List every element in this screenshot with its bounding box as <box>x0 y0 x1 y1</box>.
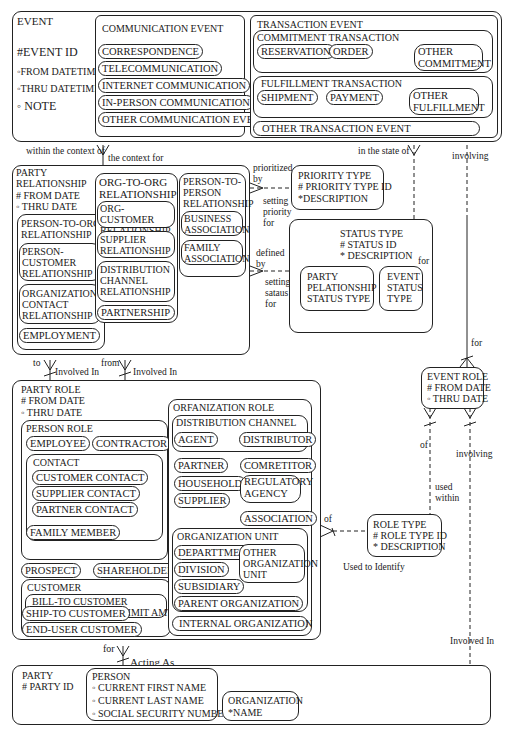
person-role-entity[interactable]: PERSON ROLE EMPLOYEE CONTRACTOR CONTACT … <box>21 420 168 560</box>
in-person-communication-subtype[interactable]: IN-PERSON COMMUNICATION <box>98 95 254 110</box>
party-relationship-entity[interactable]: PARTY RELATIONSHIP # FROM DATE ◦ THRU DA… <box>12 165 250 355</box>
other-transaction-event-subtype[interactable]: OTHER TRANSACTION EVENT <box>253 121 480 136</box>
other-commitment-subtype[interactable]: OTHER COMMITMENT <box>414 44 483 71</box>
regulatory-agency-subtype[interactable]: REGULATORY AGENCY <box>240 475 301 503</box>
label-for-status: for <box>418 256 429 267</box>
event-role-entity[interactable]: EVENT ROLE # FROM DATE ◦ THRU DATE <box>421 367 484 409</box>
party-role-title: PARTY ROLE <box>21 384 81 395</box>
reservation-subtype[interactable]: RESERVATION <box>257 44 335 59</box>
event-attr: ◦FROM DATETIME <box>17 66 101 77</box>
partnership-subtype[interactable]: PARTNERSHIP <box>97 305 175 320</box>
ship-to-customer-subtype[interactable]: SHIP-TO CUSTOMER <box>22 606 130 621</box>
party-title: PARTY <box>22 670 53 681</box>
business-association-subtype[interactable]: BUSINESS ASSOCIATION <box>181 211 243 236</box>
payment-subtype[interactable]: PAYMENT <box>326 90 383 105</box>
family-association-subtype[interactable]: FAMILY ASSOCIATION <box>181 240 243 265</box>
internet-communication-subtype[interactable]: INTERNET COMMUNICATION <box>98 78 250 93</box>
supplier-relationship-subtype[interactable]: SUPPLIER RELATIONSHIP <box>97 231 175 258</box>
shipment-subtype[interactable]: SHIPMENT <box>257 90 318 105</box>
role-type-attr: * DESCRIPTION <box>373 541 446 552</box>
person-title: PERSON <box>92 671 130 682</box>
supplier-relationship-label: SUPPLIER RELATIONSHIP <box>100 234 176 256</box>
other-fulfillment-subtype[interactable]: OTHER FULFILLMENT <box>409 88 479 115</box>
supplier-subtype[interactable]: SUPPLIER <box>174 493 230 508</box>
party-relationship-status-type-subtype[interactable]: PARTY PELATIONSHIP STATUS TYPE <box>300 266 374 311</box>
partner-contact-subtype[interactable]: PARTNER CONTACT <box>32 502 138 517</box>
organization-role-title: ORFANIZATION ROLE <box>173 402 274 413</box>
event-role-attr: ◦ THRU DATE <box>427 393 488 404</box>
label-involving-event-role: involving <box>456 449 492 460</box>
priority-type-attr: *DESCRIPTION <box>298 193 368 204</box>
competitor-subtype[interactable]: COMRETITOR <box>240 458 316 473</box>
distribution-channel-entity[interactable]: DISTRIBUTION CHANNEL AGENT DISTRIBUTOR <box>172 415 308 452</box>
event-attr: #EVENT ID <box>17 46 78 59</box>
role-type-title: ROLE TYPE <box>373 519 426 530</box>
person-to-org-relationship-entity[interactable]: PERSON-TO-ORG RELATIONSHIP PERSON-CUSTOM… <box>17 214 105 350</box>
event-role-title: EVENT ROLE <box>427 371 488 382</box>
other-communication-event-subtype[interactable]: OTHER COMMUNICATION EVENT <box>98 112 271 127</box>
status-type-entity[interactable]: STATUS TYPE # STATUS ID * DESCRIPTION PA… <box>289 219 433 333</box>
distributor-subtype[interactable]: DISTRIBUTOR <box>239 432 316 447</box>
end-user-customer-subtype[interactable]: END-USER CUSTOMER <box>22 622 142 637</box>
commitment-transaction-entity[interactable]: COMMITMENT TRANSACTION RESERVATION ORDER… <box>253 30 493 73</box>
subsidiary-subtype[interactable]: SUBSIDIARY <box>174 579 244 594</box>
person-customer-relationship-subtype[interactable]: PERSON-CUSTOMER RELATIONSHIP <box>19 243 101 281</box>
person-to-person-relationship-entity[interactable]: PERSON-TO-PERSON RELATIONSHIP BUSINESS A… <box>179 173 246 277</box>
priority-type-attr: # PRIORITY TYPE ID <box>298 181 392 192</box>
party-role-attr: # FROM DATE <box>21 395 85 406</box>
prospect-subtype[interactable]: PROSPECT <box>21 563 81 578</box>
person-attr: ◦ CURRENT LAST NAME <box>92 695 204 706</box>
household-subtype[interactable]: HOUSEHOLD <box>174 476 246 491</box>
telecommunication-subtype[interactable]: TELECOMMUNICATION <box>98 61 222 76</box>
internal-organization-subtype[interactable]: INTERNAL ORGANIZATION <box>172 616 308 631</box>
person-attr: ◦ SOCIAL SECURITY NUMBER <box>92 708 230 719</box>
party-entity[interactable]: PARTY # PARTY ID PERSON ◦ CURRENT FIRST … <box>12 665 491 725</box>
partner-subtype[interactable]: PARTNER <box>174 458 228 473</box>
organization-role-entity[interactable]: ORFANIZATION ROLE DISTRIBUTION CHANNEL A… <box>168 399 312 636</box>
division-subtype[interactable]: DIVISION <box>174 562 229 577</box>
customer-contact-subtype[interactable]: CUSTOMER CONTACT <box>32 470 148 485</box>
label-of-role-type: of <box>324 514 332 525</box>
supplier-contact-subtype[interactable]: SUPPLIER CONTACT <box>32 486 140 501</box>
label-involving-top: involving <box>452 150 488 162</box>
agent-subtype[interactable]: AGENT <box>174 432 218 447</box>
organization-unit-entity[interactable]: ORGANIZATION UNIT DEPARTTMENT DIVISION S… <box>172 528 308 612</box>
label-for-party: for <box>103 643 115 654</box>
distribution-channel-relationship-subtype[interactable]: DISTRIBUTION CHANNEL RELATIONSHIP <box>97 261 175 302</box>
shareholder-subtype[interactable]: SHAREHOLDER <box>93 563 178 578</box>
org-to-org-relationship-entity[interactable]: ORG-TO-ORG RELATIONSHIP ORG-CUSTOMER REL… <box>95 173 178 323</box>
party-attr: # PARTY ID <box>22 681 73 692</box>
event-status-type-subtype[interactable]: EVENT STATUS TYPE <box>379 266 423 311</box>
party-relationship-attr: # FROM DATE <box>16 190 80 201</box>
person-role-title: PERSON ROLE <box>26 423 93 434</box>
correspondence-subtype[interactable]: CORRESPONDENCE <box>98 44 203 59</box>
org-customer-relationship-subtype[interactable]: ORG-CUSTOMER RELATIONSHIP <box>97 201 175 228</box>
organization-contact-relationship-label: ORGANIZATION CONTACT RELATIONSHIP <box>22 288 100 321</box>
association-subtype[interactable]: ASSOCIATION <box>240 511 317 526</box>
person-to-person-title: PERSON-TO-PERSON RELATIONSHIP <box>183 176 247 209</box>
order-subtype[interactable]: ORDER <box>329 44 373 59</box>
employment-subtype[interactable]: EMPLOYMENT <box>19 328 100 343</box>
parent-organization-subtype[interactable]: PARENT ORGANIZATION <box>174 596 303 611</box>
person-entity[interactable]: PERSON ◦ CURRENT FIRST NAME ◦ CURRENT LA… <box>86 668 218 721</box>
organization-entity[interactable]: ORGANIZATION *NAME <box>222 691 299 721</box>
contractor-subtype[interactable]: CONTRACTOR <box>92 436 171 451</box>
fulfillment-transaction-title: FULFILLMENT TRANSACTION <box>261 78 402 89</box>
transaction-event-entity[interactable]: TRANSACTION EVENT COMMITMENT TRANSACTION… <box>250 15 498 138</box>
family-member-subtype[interactable]: FAMILY MEMBER <box>26 525 120 540</box>
communication-event-entity[interactable]: COMMUNICATION EVENT CORRESPONDENCE TELEC… <box>95 15 245 137</box>
event-entity[interactable]: EVENT #EVENT ID ◦FROM DATETIME ◦THRU DAT… <box>12 11 502 142</box>
label-prioritized-by: prioritized by <box>253 163 293 185</box>
status-type-title: STATUS TYPE <box>340 228 403 239</box>
fulfillment-transaction-entity[interactable]: FULFILLMENT TRANSACTION SHIPMENT PAYMENT… <box>253 76 493 118</box>
communication-event-title: COMMUNICATION EVENT <box>102 23 223 34</box>
label-within-context-of: within the context of <box>26 145 105 157</box>
party-role-attr: ◦ THRU DATE <box>21 407 82 418</box>
organization-contact-relationship-subtype[interactable]: ORGANIZATION CONTACT RELATIONSHIP <box>19 284 101 324</box>
family-association-label: FAMILY ASSOCIATION <box>184 242 244 264</box>
priority-type-entity[interactable]: PRIORITY TYPE # PRIORITY TYPE ID *DESCRI… <box>291 165 384 210</box>
employee-subtype[interactable]: EMPLOYEE <box>26 436 90 451</box>
other-organization-unit-subtype[interactable]: OTHER ORGANIZATION UNIT <box>239 544 305 583</box>
label-from: from <box>101 358 119 369</box>
role-type-entity[interactable]: ROLE TYPE # ROLE TYPE ID * DESCRIPTION <box>367 514 442 557</box>
